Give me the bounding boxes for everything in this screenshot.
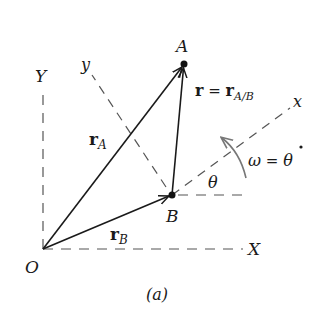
vector-rA (43, 67, 182, 249)
label-rB: rB (110, 224, 128, 247)
relative-motion-diagram: A B O X Y x y rA rB r = rA/B θ ω = θ (a) (0, 0, 316, 313)
point-A (181, 61, 188, 68)
label-Y-axis: Y (35, 66, 48, 86)
vector-r-A-B (172, 68, 184, 195)
label-y-axis: y (80, 55, 91, 74)
figure-caption: (a) (146, 285, 168, 304)
label-x-axis: x (293, 92, 302, 111)
point-B (169, 192, 176, 199)
vector-rB (43, 196, 169, 249)
label-B: B (165, 206, 179, 226)
label-omega: ω = θ (248, 151, 293, 170)
label-A: A (174, 36, 188, 56)
theta-dot (299, 145, 302, 148)
label-O: O (25, 257, 39, 277)
label-X-axis: X (246, 239, 261, 259)
rotation-arc-icon (222, 138, 246, 178)
label-theta: θ (208, 173, 218, 192)
label-r-equals-rAB: r = rA/B (195, 81, 254, 103)
label-rA: rA (89, 129, 107, 152)
